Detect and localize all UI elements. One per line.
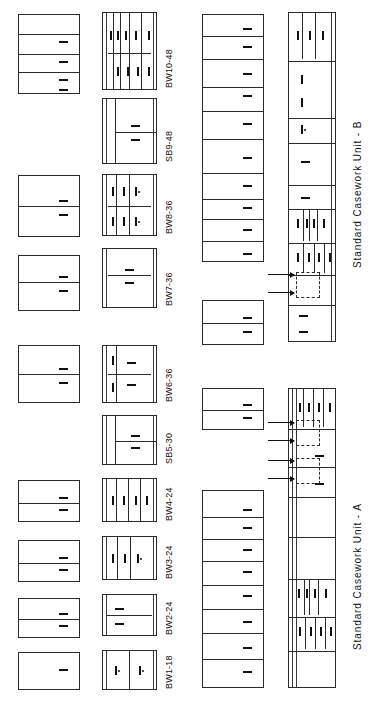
label-sb5-30: SB5-30 (164, 433, 174, 464)
plan-outline (18, 255, 80, 311)
elevation-bw7-36 (102, 248, 157, 308)
label-bw6-36: BW6-36 (164, 368, 174, 402)
section-stack-mid (202, 300, 264, 345)
label-bw2-24: BW2-24 (164, 601, 174, 635)
label-bw8-36: BW8-36 (164, 200, 174, 234)
hidden-detail-a-1 (296, 420, 320, 446)
elevation-bw8-36 (102, 174, 157, 236)
leader-a-2 (268, 440, 294, 441)
plan-outline (18, 598, 80, 638)
drawing-sheet: BW10-48 SB9-48 BW8-36 BW7-36 (0, 0, 381, 715)
label-bw4-24: BW4-24 (164, 487, 174, 521)
hidden-detail-a-2 (296, 458, 320, 484)
plan-outline (18, 175, 80, 237)
assembly-title-a: Standard Casework Unit - A (352, 503, 363, 650)
plan-outline (18, 652, 80, 690)
leader-a-1 (268, 422, 294, 423)
plan-outline (18, 540, 80, 582)
label-bw3-24: BW3-24 (164, 545, 174, 579)
elevation-bw1-18 (102, 650, 157, 690)
section-stack-upper (202, 14, 264, 262)
label-bw1-18: BW1-18 (164, 655, 174, 689)
elevation-sb5-30 (102, 415, 157, 465)
assembly-title-b: Standard Casework Unit - B (352, 121, 363, 268)
section-stack-lower-small (202, 388, 264, 430)
leader-a-4 (268, 478, 294, 479)
plan-outline (18, 480, 80, 522)
label-sb9-48: SB9-48 (164, 131, 174, 162)
label-bw7-36: BW7-36 (164, 272, 174, 306)
plan-outline (18, 14, 80, 94)
elevation-bw10-48 (102, 12, 157, 90)
leader-a-3 (268, 460, 294, 461)
section-stack-lower (202, 490, 264, 688)
elevation-bw3-24 (102, 536, 157, 580)
hidden-detail-b (296, 272, 320, 298)
leader-b-2 (268, 292, 294, 293)
elevation-sb9-48 (102, 98, 157, 164)
plan-outline (18, 345, 80, 403)
elevation-bw4-24 (102, 478, 157, 522)
leader-b-1 (268, 274, 294, 275)
label-bw10-48: BW10-48 (164, 49, 174, 88)
elevation-bw6-36 (102, 345, 157, 403)
elevation-bw2-24 (102, 594, 157, 636)
